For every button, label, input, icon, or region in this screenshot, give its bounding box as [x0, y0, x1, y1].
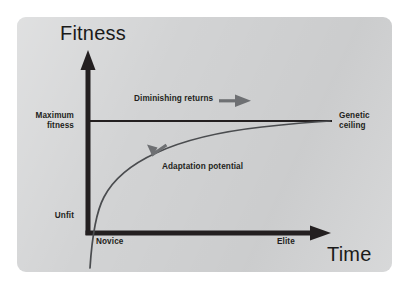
x-axis-title: Time — [327, 243, 372, 267]
y-axis-arrowhead-icon — [81, 50, 96, 70]
annotation-adaptation-potential: Adaptation potential — [162, 162, 243, 172]
diminishing-returns-arrow-icon — [219, 95, 251, 107]
y-axis-line — [86, 62, 91, 235]
y-axis-label-maximum-fitness: Maximum fitness — [12, 111, 74, 130]
x-axis-label-elite: Elite — [277, 237, 295, 247]
figure-root: Fitness Time Maximum fitness Unfit Novic… — [0, 0, 409, 288]
x-axis-line — [86, 231, 318, 236]
annotation-genetic-ceiling: Genetic ceiling — [339, 111, 395, 130]
y-axis-label-unfit: Unfit — [12, 211, 74, 221]
annotation-diminishing-returns: Diminishing returns — [134, 94, 213, 104]
y-axis-title: Fitness — [60, 22, 126, 46]
x-axis-label-novice: Novice — [96, 237, 123, 247]
x-axis-arrowhead-icon — [310, 226, 331, 241]
